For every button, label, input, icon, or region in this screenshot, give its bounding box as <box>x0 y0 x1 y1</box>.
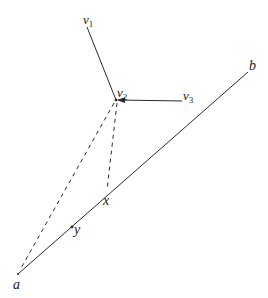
dashed-v2-x <box>107 103 117 190</box>
edge-v1-v2 <box>87 27 116 100</box>
label-v3: v3 <box>183 88 194 105</box>
dashed-v2-a <box>20 103 114 270</box>
point-a <box>17 273 19 275</box>
point-y <box>71 226 74 229</box>
label-v2: v2 <box>117 85 127 102</box>
edge-v3-v2-arrow <box>118 100 182 101</box>
label-b: b <box>249 58 256 73</box>
geometry-diagram: v1 v2 v3 b x y a <box>0 0 268 298</box>
label-y: y <box>72 222 81 237</box>
label-v1: v1 <box>83 12 93 29</box>
label-x: x <box>102 193 110 208</box>
line-a-b <box>18 72 248 274</box>
label-a: a <box>13 277 20 292</box>
